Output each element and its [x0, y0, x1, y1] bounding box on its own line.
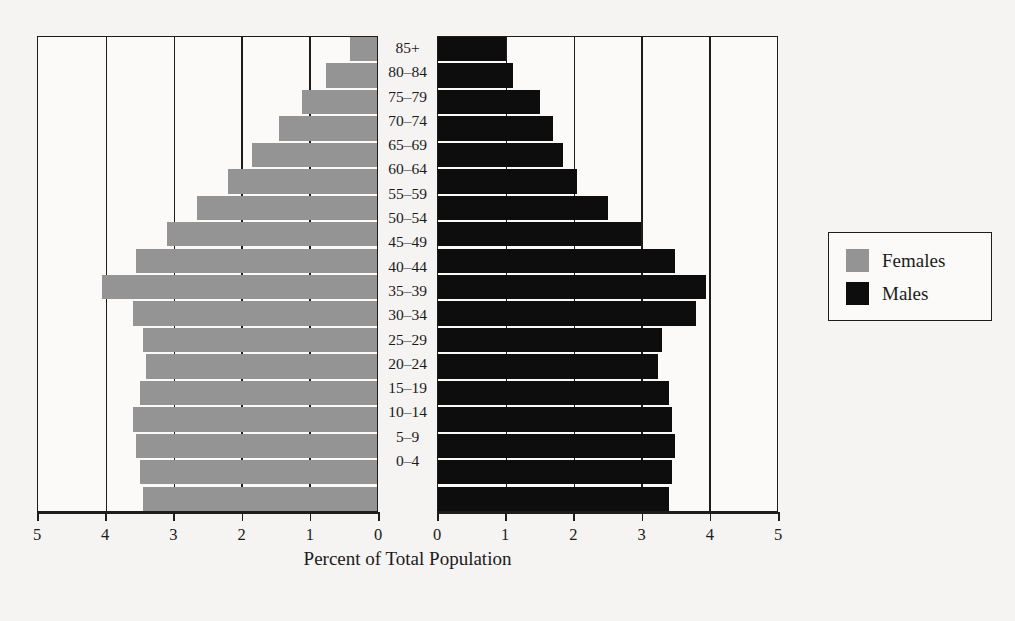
legend-entry-females: Females	[846, 244, 991, 277]
bar-females-60_64	[228, 169, 377, 193]
age-group-axis: 85+80–8475–7970–7465–6960–6455–5950–5445…	[378, 36, 437, 512]
chart-legend: Females Males	[828, 232, 992, 321]
x-tick	[242, 512, 244, 521]
age-group-label: 55–59	[388, 182, 427, 206]
bar-row	[438, 487, 777, 511]
bar-row	[438, 169, 777, 193]
bar-females-5_9	[140, 460, 377, 484]
bar-row	[38, 249, 377, 273]
x-tick-label: 4	[695, 525, 725, 545]
females-plot-panel	[37, 36, 378, 512]
bar-row	[38, 328, 377, 352]
x-tick-label: 2	[558, 525, 588, 545]
age-group-label: 35–39	[388, 279, 427, 303]
bar-males-5_9	[438, 460, 672, 484]
bar-row	[38, 169, 377, 193]
bar-row	[38, 90, 377, 114]
bar-row	[38, 407, 377, 431]
bar-males-75_79	[438, 90, 540, 114]
age-group-label: 40–44	[388, 255, 427, 279]
legend-entry-males: Males	[846, 277, 991, 310]
bar-row	[38, 434, 377, 458]
bar-males-25_29	[438, 354, 658, 378]
x-tick	[505, 512, 507, 521]
x-tick	[378, 512, 380, 521]
bar-females-35_39	[133, 301, 377, 325]
bar-females-15_19	[133, 407, 377, 431]
x-tick-label: 1	[295, 525, 325, 545]
x-tick	[642, 512, 644, 521]
bar-males-70_74	[438, 116, 553, 140]
age-group-label: 20–24	[388, 352, 427, 376]
x-axis-females: 543210	[37, 512, 378, 514]
bar-males-20_24	[438, 381, 669, 405]
bar-males-45_49	[438, 249, 675, 273]
bar-females-20_24	[140, 381, 377, 405]
bar-row	[38, 487, 377, 511]
bar-females-85+	[350, 37, 377, 61]
x-tick	[37, 512, 39, 521]
x-axis-title: Percent of Total Population	[37, 548, 778, 570]
x-tick-label: 2	[227, 525, 257, 545]
age-group-label: 5–9	[396, 425, 419, 449]
bar-row	[38, 63, 377, 87]
bar-row	[438, 275, 777, 299]
bar-row	[438, 90, 777, 114]
bar-females-25_29	[146, 354, 377, 378]
bar-males-65_69	[438, 143, 563, 167]
bar-row	[38, 143, 377, 167]
age-group-label: 50–54	[388, 206, 427, 230]
bar-row	[38, 301, 377, 325]
legend-swatch-females-icon	[846, 249, 869, 272]
bar-row	[438, 37, 777, 61]
x-axis-males: 012345	[437, 512, 778, 514]
x-tick	[710, 512, 712, 521]
x-tick	[173, 512, 175, 521]
bar-row	[438, 407, 777, 431]
bar-males-0_4	[438, 487, 669, 511]
age-group-label: 45–49	[388, 230, 427, 254]
x-tick-label: 5	[763, 525, 793, 545]
bar-row	[38, 275, 377, 299]
male-bar-group	[438, 37, 777, 511]
x-tick	[778, 512, 780, 521]
x-tick-label: 0	[422, 525, 452, 545]
bar-females-75_79	[302, 90, 377, 114]
bar-males-30_34	[438, 328, 662, 352]
bar-males-40_44	[438, 275, 706, 299]
bar-row	[38, 460, 377, 484]
bar-row	[438, 222, 777, 246]
bar-row	[438, 328, 777, 352]
x-tick-label: 4	[90, 525, 120, 545]
bar-males-85+	[438, 37, 506, 61]
age-group-label: 0–4	[396, 449, 419, 473]
bar-row	[438, 301, 777, 325]
bar-row	[438, 434, 777, 458]
bar-row	[438, 460, 777, 484]
x-tick-label: 3	[627, 525, 657, 545]
bar-males-60_64	[438, 169, 577, 193]
bar-males-10_14	[438, 434, 675, 458]
bar-females-40_44	[102, 275, 377, 299]
age-group-label: 25–29	[388, 328, 427, 352]
bar-row	[438, 354, 777, 378]
age-group-label: 75–79	[388, 85, 427, 109]
bar-row	[38, 222, 377, 246]
males-plot-panel	[437, 36, 778, 512]
bar-row	[38, 381, 377, 405]
bar-row	[38, 196, 377, 220]
age-group-label: 30–34	[388, 303, 427, 327]
bar-males-50_54	[438, 222, 641, 246]
bar-females-80_84	[326, 63, 377, 87]
x-tick-label: 1	[490, 525, 520, 545]
x-tick-label: 5	[22, 525, 52, 545]
bar-females-10_14	[136, 434, 377, 458]
bar-females-50_54	[167, 222, 377, 246]
bar-row	[438, 249, 777, 273]
bar-row	[38, 37, 377, 61]
bar-males-55_59	[438, 196, 608, 220]
bar-females-45_49	[136, 249, 377, 273]
bar-row	[38, 116, 377, 140]
age-group-label: 60–64	[388, 157, 427, 181]
bar-males-80_84	[438, 63, 513, 87]
